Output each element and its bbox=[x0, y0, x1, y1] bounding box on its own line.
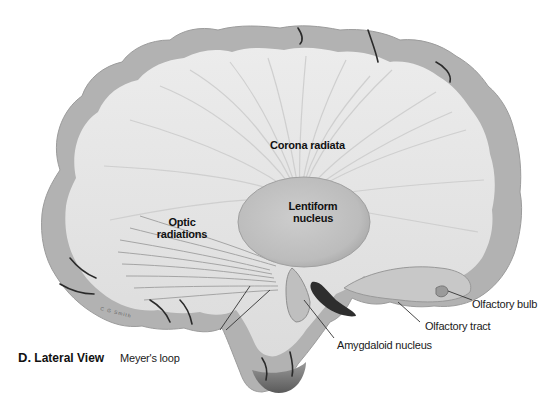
label-corona-radiata: Corona radiata bbox=[270, 139, 345, 151]
caption-text: Lateral View bbox=[34, 351, 104, 365]
label-meyers-loop: Meyer's loop bbox=[120, 352, 180, 364]
label-lentiform-line2: nucleus bbox=[286, 212, 340, 224]
label-olfactory-tract: Olfactory tract bbox=[425, 320, 490, 332]
olfactory-bulb bbox=[436, 286, 448, 297]
label-lentiform-line1: Lentiform bbox=[286, 200, 340, 212]
label-olfactory-bulb: Olfactory bulb bbox=[472, 298, 537, 310]
label-optic-line2: radiations bbox=[150, 228, 214, 240]
label-amygdaloid-nucleus: Amygdaloid nucleus bbox=[337, 339, 432, 351]
brain-dissection-illustration bbox=[0, 0, 548, 410]
label-optic-line1: Optic bbox=[150, 216, 214, 228]
caption-letter: D. bbox=[18, 350, 31, 365]
figure-caption: D. Lateral View bbox=[18, 350, 104, 365]
label-optic-radiations: Optic radiations bbox=[150, 216, 214, 240]
label-lentiform-nucleus: Lentiform nucleus bbox=[286, 200, 340, 224]
